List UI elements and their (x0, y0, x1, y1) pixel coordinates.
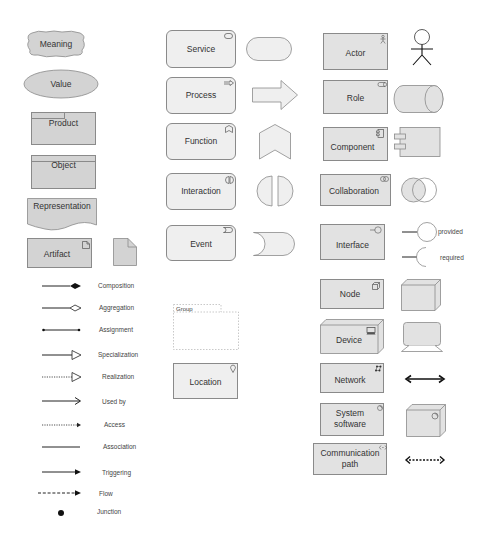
required-label: required (440, 254, 464, 261)
network-label: Network (320, 365, 380, 395)
specialization-label: Specialization (98, 351, 138, 358)
access-label: Access (104, 421, 125, 428)
artifact-notation (113, 238, 137, 266)
actor-notation (408, 29, 436, 67)
interaction-label: Interaction (166, 173, 236, 210)
group-label: Group (176, 306, 193, 312)
node-label: Node (320, 279, 380, 309)
system-software-notation (406, 404, 446, 437)
association-line (42, 442, 82, 452)
triggering-line (42, 467, 82, 477)
junction-label: Junction (97, 508, 121, 515)
actor-label: Actor (323, 35, 388, 72)
artifact-label: Artifact (27, 246, 87, 262)
collaboration-label: Collaboration (320, 176, 388, 206)
interface-provided-notation (402, 222, 438, 242)
used-by-line (42, 396, 82, 406)
value-label: Value (23, 69, 99, 99)
event-label: Event (166, 229, 236, 259)
service-label: Service (166, 30, 236, 68)
event-notation (253, 232, 295, 256)
flow-label: Flow (99, 490, 113, 497)
association-label: Association (103, 443, 136, 450)
provided-label: provided (438, 228, 463, 235)
role-notation (394, 85, 444, 113)
node-notation (401, 279, 441, 311)
collaboration-notation (401, 177, 437, 203)
service-notation (246, 37, 292, 61)
communication-path-notation (405, 455, 445, 465)
process-label: Process (166, 77, 236, 114)
meaning-label: Meaning (26, 30, 86, 58)
process-notation (252, 80, 298, 110)
device-label: Device (320, 326, 378, 354)
representation-label: Representation (27, 199, 97, 213)
used-by-label: Used by (102, 398, 126, 405)
triggering-label: Triggering (102, 469, 131, 476)
composition-line (42, 281, 82, 291)
product-label: Product (31, 112, 96, 134)
network-notation (405, 374, 445, 384)
interface-required-notation (402, 247, 438, 267)
component-notation (394, 127, 441, 157)
composition-label: Composition (98, 282, 134, 289)
specialization-line (42, 349, 82, 361)
communication-path-label-line2: path (313, 458, 387, 470)
assignment-label: Assignment (99, 326, 133, 333)
component-label: Component (320, 131, 385, 163)
function-notation (259, 124, 291, 160)
interaction-notation (255, 175, 295, 207)
assignment-line (42, 325, 82, 335)
aggregation-label: Aggregation (99, 304, 134, 311)
device-notation (401, 322, 443, 352)
role-label: Role (323, 82, 388, 114)
interface-label: Interface (320, 230, 385, 260)
flow-line (38, 488, 82, 498)
realization-line (42, 371, 82, 383)
access-line (42, 420, 82, 430)
system-software-label-line2: software (320, 418, 380, 430)
aggregation-line (42, 303, 82, 313)
location-label: Location (173, 367, 238, 397)
realization-label: Realization (102, 373, 134, 380)
junction-dot (57, 509, 65, 517)
object-label: Object (31, 158, 96, 172)
function-label: Function (166, 123, 236, 160)
